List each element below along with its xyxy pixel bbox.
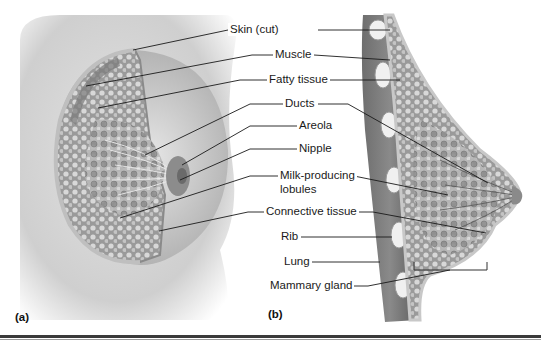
- label-muscle: Muscle: [273, 48, 313, 61]
- label-mammary-gland: Mammary gland: [268, 279, 354, 292]
- panel-label-a: (a): [15, 311, 29, 323]
- label-skin-cut: Skin (cut): [228, 23, 281, 36]
- label-fatty-tissue: Fatty tissue: [267, 73, 330, 86]
- panel-b-illustration: [362, 15, 522, 322]
- label-lung: Lung: [282, 255, 312, 268]
- breast-anatomy-illustration: [0, 0, 541, 344]
- label-lobules: lobules: [278, 183, 318, 196]
- label-connective-tissue: Connective tissue: [264, 205, 359, 218]
- label-areola: Areola: [297, 119, 334, 132]
- panel-a-illustration: [20, 15, 236, 320]
- label-milk-producing: Milk-producing: [278, 169, 357, 182]
- bottom-rule: [0, 335, 541, 338]
- panel-label-b: (b): [268, 308, 283, 320]
- label-nipple: Nipple: [297, 142, 334, 155]
- label-ducts: Ducts: [283, 97, 316, 110]
- bottom-rule-thin: [0, 339, 541, 340]
- label-rib: Rib: [279, 230, 300, 243]
